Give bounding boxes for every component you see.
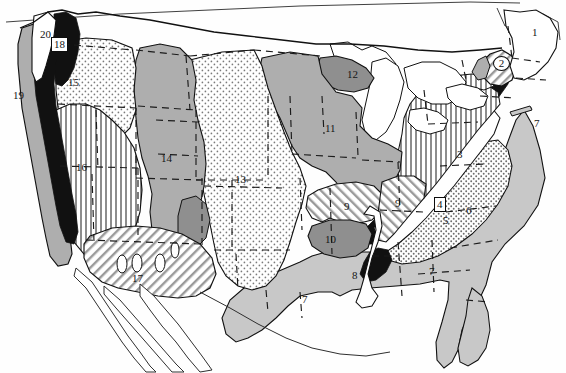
region-label-17: 17 [132,273,143,284]
region-label-7-gulf-west: 7 [302,294,308,305]
region-label-15: 15 [68,77,79,88]
region-label-19: 19 [13,90,24,101]
region-label-10: 10 [325,234,336,245]
region-label-2-text: 2 [499,58,505,69]
map-canvas [0,0,566,373]
region-label-1: 1 [532,27,538,38]
region-label-11: 11 [325,123,336,134]
region-label-9-interior: 9 [395,198,401,209]
region-label-12: 12 [347,69,358,80]
region-label-7-gulf-east: 7 [429,266,435,277]
region-label-2: 2 [493,56,510,71]
physiographic-map: 1 2 3 4 5 6 7 7 7 8 9 9 10 11 12 13 14 1… [0,0,566,373]
region-10-ouachita-province [308,220,372,258]
region-label-14: 14 [161,153,172,164]
region-label-6: 6 [466,205,472,216]
region-label-7-atlantic: 7 [534,118,540,129]
region-label-18: 18 [51,37,68,52]
region-label-4: 4 [434,197,446,212]
region-label-8: 8 [352,270,358,281]
region-label-20: 20 [40,29,51,40]
region-label-16: 16 [76,162,87,173]
region-1-northeast-highlands [504,10,558,80]
region-label-9-ozark: 9 [344,201,350,212]
region-label-3: 3 [457,149,463,160]
region-label-5: 5 [443,215,449,226]
region-label-13: 13 [235,174,246,185]
neighbor-country-outlines [6,2,560,40]
